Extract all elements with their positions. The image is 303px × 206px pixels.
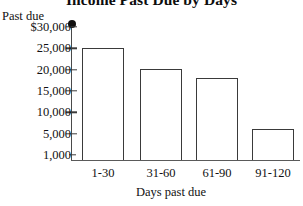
x-axis-line xyxy=(71,160,300,161)
x-tick-label-91-120: 91-120 xyxy=(255,166,290,181)
x-tick-label-61-90: 61-90 xyxy=(202,166,231,181)
x-axis-title: Days past due xyxy=(71,185,271,200)
y-tick-label: 15,000 xyxy=(37,85,71,98)
y-tick-label: $30,000 xyxy=(30,21,71,34)
y-tick-label: 5,000 xyxy=(43,127,71,140)
x-tick-label-31-60: 31-60 xyxy=(146,166,175,181)
plot-area: $30,000 25,000 20,000 15,000 10,000 5,00… xyxy=(0,0,303,206)
y-tick-label: 1,000 xyxy=(43,149,71,162)
bar-61-90[interactable] xyxy=(196,78,238,160)
y-axis-line xyxy=(71,24,72,161)
bar-1-30[interactable] xyxy=(82,48,124,160)
bar-31-60[interactable] xyxy=(140,69,182,160)
y-tick-label: 10,000 xyxy=(37,106,71,119)
y-tick-label: 20,000 xyxy=(37,63,71,76)
bar-91-120[interactable] xyxy=(252,129,294,160)
x-tick-label-1-30: 1-30 xyxy=(92,166,115,181)
y-tick-label: 25,000 xyxy=(37,42,71,55)
